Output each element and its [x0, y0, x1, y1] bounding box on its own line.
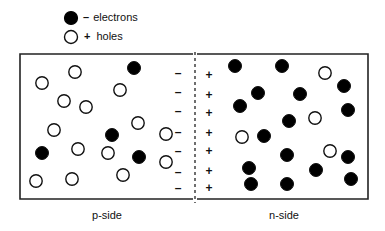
- electron-icon: [234, 100, 247, 113]
- negative-charge-sign: –: [175, 125, 182, 139]
- electron-icon: [36, 147, 49, 160]
- hole-icon: [114, 84, 126, 96]
- hole-icon: [72, 143, 84, 155]
- electron-icon: [243, 162, 256, 175]
- electron-icon: [245, 178, 258, 191]
- p-side-region: [20, 54, 193, 199]
- n-side-depletion-positive-charges: +++++++: [205, 68, 212, 195]
- hole-icon: [319, 67, 331, 79]
- negative-charge-sign: –: [175, 181, 182, 195]
- electron-icon: [342, 151, 355, 164]
- pn-junction-diagram: ––––––– +++++++: [0, 0, 385, 231]
- hole-icon: [236, 131, 248, 143]
- positive-charge-sign: +: [205, 68, 212, 82]
- legend-electrons-entry: –electrons: [83, 11, 138, 23]
- hole-icon: [80, 101, 92, 113]
- p-side-label: p-side: [92, 209, 122, 221]
- electron-icon: [258, 130, 271, 143]
- legend-hole-icon: [65, 31, 78, 44]
- electron-icon: [276, 60, 289, 73]
- hole-icon: [48, 124, 60, 136]
- electron-icon: [229, 60, 242, 73]
- p-side-electrons: [36, 62, 146, 164]
- electron-icon: [338, 80, 351, 93]
- hole-icon: [324, 145, 336, 157]
- legend: [65, 12, 78, 44]
- n-side-holes: [236, 67, 336, 157]
- hole-icon: [132, 117, 144, 129]
- legend-holes-sign: +: [84, 30, 90, 42]
- electron-icon: [128, 62, 141, 75]
- negative-charge-sign: –: [175, 66, 182, 80]
- negative-charge-sign: –: [175, 144, 182, 158]
- hole-icon: [160, 156, 172, 168]
- p-side-depletion-negative-charges: –––––––: [175, 66, 182, 195]
- legend-holes-label: holes: [96, 30, 122, 42]
- hole-icon: [309, 112, 321, 124]
- electron-icon: [106, 129, 119, 142]
- electron-icon: [283, 115, 296, 128]
- legend-electrons-label: electrons: [93, 11, 138, 23]
- hole-icon: [102, 147, 114, 159]
- n-side-electrons: [229, 60, 358, 191]
- electron-icon: [345, 173, 358, 186]
- p-side-holes: [30, 66, 172, 187]
- legend-electrons-sign: –: [83, 11, 89, 23]
- electron-icon: [281, 178, 294, 191]
- negative-charge-sign: –: [175, 165, 182, 179]
- positive-charge-sign: +: [205, 164, 212, 178]
- negative-charge-sign: –: [175, 85, 182, 99]
- positive-charge-sign: +: [205, 106, 212, 120]
- positive-charge-sign: +: [205, 144, 212, 158]
- electron-icon: [133, 151, 146, 164]
- hole-icon: [69, 66, 81, 78]
- hole-icon: [117, 169, 129, 181]
- n-side-label: n-side: [269, 209, 299, 221]
- electron-icon: [281, 149, 294, 162]
- legend-electron-icon: [65, 12, 78, 25]
- hole-icon: [160, 128, 172, 140]
- hole-icon: [58, 95, 70, 107]
- hole-icon: [30, 175, 42, 187]
- electron-icon: [342, 104, 355, 117]
- electron-icon: [252, 87, 265, 100]
- positive-charge-sign: +: [205, 126, 212, 140]
- electron-icon: [310, 164, 323, 177]
- legend-holes-entry: +holes: [84, 30, 123, 42]
- positive-charge-sign: +: [205, 88, 212, 102]
- electron-icon: [294, 88, 307, 101]
- positive-charge-sign: +: [205, 181, 212, 195]
- hole-icon: [36, 77, 48, 89]
- negative-charge-sign: –: [175, 104, 182, 118]
- n-side-region: [197, 54, 368, 199]
- hole-icon: [66, 173, 78, 185]
